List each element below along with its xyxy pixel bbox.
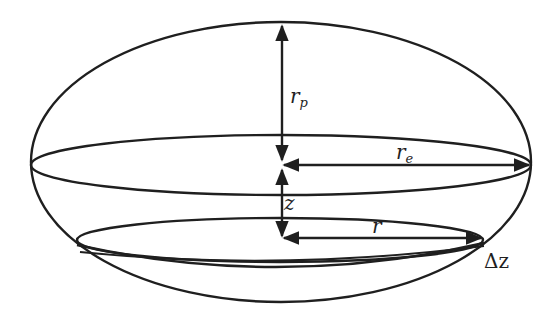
slice-thickness-label: Δz [484, 251, 509, 271]
spheroid-diagram [0, 0, 556, 318]
slice-radius-label: r [372, 216, 382, 236]
slice-bottom-edge-2 [80, 246, 484, 261]
polar-radius-label: rp [290, 86, 308, 109]
height-label: z [284, 193, 295, 213]
equatorial-radius-label: re [396, 142, 413, 165]
